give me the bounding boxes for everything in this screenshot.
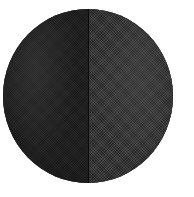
figure-canvas: [0, 0, 194, 197]
disc-half-left: [3, 9, 88, 183]
disc-divider-line: [88, 9, 89, 183]
figure-caption: [0, 0, 1, 1]
disc-specimen: [3, 9, 173, 183]
disc-half-right: [88, 9, 173, 183]
